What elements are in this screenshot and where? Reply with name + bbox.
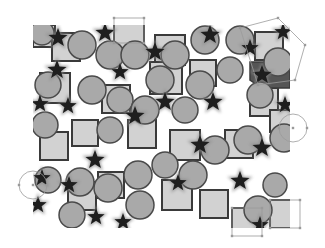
selection-handle[interactable]: [299, 199, 301, 201]
selection-handle[interactable]: [18, 184, 20, 186]
circle-shape[interactable]: [217, 57, 243, 83]
selection-handle[interactable]: [239, 27, 241, 29]
selection-handle[interactable]: [143, 42, 145, 44]
square-shape[interactable]: [200, 190, 228, 218]
circle-shape[interactable]: [152, 152, 178, 178]
shapes-layer: [26, 18, 298, 236]
circle-shape[interactable]: [68, 31, 96, 59]
circle-shape[interactable]: [32, 112, 58, 138]
circle-shape[interactable]: [97, 117, 123, 143]
selection-handle[interactable]: [32, 184, 34, 186]
selection-handle[interactable]: [277, 17, 279, 19]
selection-handle[interactable]: [299, 227, 301, 229]
selection-handle[interactable]: [269, 199, 271, 201]
selection-handle[interactable]: [46, 184, 48, 186]
circle-shape[interactable]: [179, 161, 207, 189]
selection-handle[interactable]: [113, 42, 115, 44]
selection-handle[interactable]: [304, 44, 306, 46]
selection-handle[interactable]: [231, 207, 233, 209]
selection-handle[interactable]: [292, 127, 294, 129]
circle-shape[interactable]: [186, 71, 214, 99]
circle-shape[interactable]: [121, 41, 149, 69]
square-shape[interactable]: [72, 120, 98, 146]
circle-shape[interactable]: [78, 76, 106, 104]
canvas-svg[interactable]: [0, 0, 325, 248]
selection-handle[interactable]: [269, 227, 271, 229]
selection-handle[interactable]: [143, 17, 145, 19]
circle-shape[interactable]: [161, 41, 189, 69]
drawing-canvas[interactable]: [0, 0, 325, 248]
circle-shape[interactable]: [247, 82, 273, 108]
circle-shape[interactable]: [146, 66, 174, 94]
circle-shape[interactable]: [35, 72, 61, 98]
selection-handle[interactable]: [294, 79, 296, 81]
selection-handle[interactable]: [278, 127, 280, 129]
circle-shape[interactable]: [126, 191, 154, 219]
selection-handle[interactable]: [231, 235, 233, 237]
selection-handle[interactable]: [261, 235, 263, 237]
circle-shape[interactable]: [124, 161, 152, 189]
circle-shape[interactable]: [94, 174, 122, 202]
square-shape[interactable]: [270, 200, 298, 228]
circle-shape[interactable]: [30, 21, 54, 45]
circle-shape[interactable]: [59, 202, 85, 228]
circle-shape[interactable]: [263, 173, 287, 197]
circle-shape[interactable]: [107, 87, 133, 113]
selection-handle[interactable]: [257, 84, 259, 86]
selection-handle[interactable]: [306, 127, 308, 129]
circle-shape[interactable]: [172, 97, 198, 123]
selection-handle[interactable]: [113, 17, 115, 19]
selection-handle[interactable]: [261, 207, 263, 209]
